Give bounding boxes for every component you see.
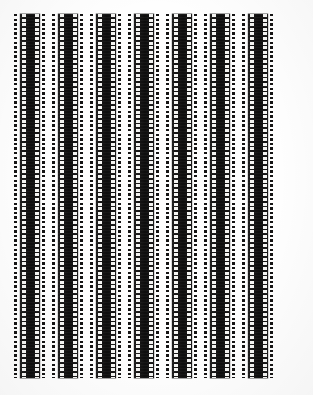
strip-edge-line-bottom xyxy=(134,378,154,379)
film-body xyxy=(248,14,268,378)
strip-edge-line-bottom xyxy=(248,378,268,379)
sprocket-hole-rail-left xyxy=(174,14,178,378)
perforation-dot-column-left xyxy=(52,14,55,378)
strip-edge-line-top xyxy=(172,13,192,14)
sprocket-hole-rail-left xyxy=(98,14,102,378)
sprocket-hole-rail-right xyxy=(111,14,115,378)
sprocket-hole-rail-right xyxy=(149,14,153,378)
perforation-dot-column-right xyxy=(232,14,235,378)
sprocket-hole-rail-left xyxy=(136,14,140,378)
perforation-dot-column-left xyxy=(128,14,131,378)
sprocket-hole-rail-right xyxy=(263,14,267,378)
scanned-page xyxy=(0,0,313,395)
strip-edge-line-top xyxy=(58,13,78,14)
perforation-dot-column-right xyxy=(118,14,121,378)
sprocket-hole-rail-left xyxy=(250,14,254,378)
strip-edge-line-bottom xyxy=(96,378,116,379)
sprocket-hole-rail-left xyxy=(60,14,64,378)
perforation-dot-column-left xyxy=(166,14,169,378)
film-strip-layer xyxy=(0,0,313,395)
sprocket-hole-rail-right xyxy=(35,14,39,378)
strip-edge-line-top xyxy=(20,13,40,14)
strip-edge-line-top xyxy=(134,13,154,14)
sprocket-hole-rail-right xyxy=(187,14,191,378)
strip-edge-line-bottom xyxy=(172,378,192,379)
strip-edge-line-top xyxy=(210,13,230,14)
strip-edge-line-bottom xyxy=(210,378,230,379)
sprocket-hole-rail-right xyxy=(225,14,229,378)
perforation-dot-column-left xyxy=(242,14,245,378)
sprocket-hole-rail-right xyxy=(73,14,77,378)
perforation-dot-column-right xyxy=(156,14,159,378)
perforation-dot-column-right xyxy=(42,14,45,378)
strip-edge-line-top xyxy=(248,13,268,14)
perforation-dot-column-left xyxy=(204,14,207,378)
strip-edge-line-bottom xyxy=(20,378,40,379)
perforation-dot-column-left xyxy=(90,14,93,378)
sprocket-hole-rail-left xyxy=(22,14,26,378)
perforation-dot-column-left xyxy=(14,14,17,378)
perforation-dot-column-right xyxy=(194,14,197,378)
perforation-dot-column-right xyxy=(270,14,273,378)
strip-edge-line-bottom xyxy=(58,378,78,379)
sprocket-hole-rail-left xyxy=(212,14,216,378)
perforation-dot-column-right xyxy=(80,14,83,378)
strip-edge-line-top xyxy=(96,13,116,14)
